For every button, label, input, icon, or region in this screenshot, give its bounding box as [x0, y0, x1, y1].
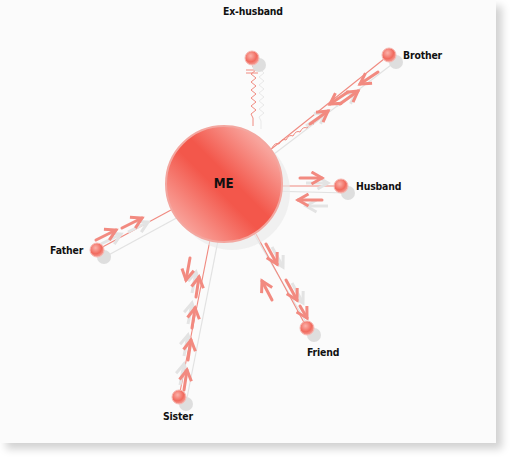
label-sister: Sister — [163, 410, 193, 423]
line-ex-husband — [251, 66, 256, 126]
label-father: Father — [50, 244, 83, 257]
label-ex-husband: Ex-husband — [223, 5, 283, 18]
me-label: ME — [214, 175, 234, 191]
node-friend — [300, 321, 314, 335]
label-husband: Husband — [356, 180, 401, 193]
node-sister — [172, 390, 186, 404]
node-brother — [382, 48, 396, 62]
relationship-diagram — [0, 0, 512, 463]
line-brother — [270, 55, 389, 150]
node-husband — [334, 179, 348, 193]
label-brother: Brother — [403, 49, 442, 62]
node-father — [90, 243, 104, 257]
label-friend: Friend — [307, 346, 339, 359]
node-ex-husband — [245, 51, 259, 65]
